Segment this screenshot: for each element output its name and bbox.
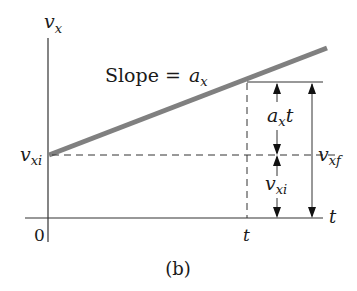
- arrow-up-icon: [308, 83, 316, 94]
- arrow-up-icon: [273, 83, 281, 94]
- y-axis-label: vx: [44, 10, 63, 36]
- slope-label: Slope = ax: [105, 64, 208, 89]
- final-velocity-label: vxf: [318, 143, 343, 168]
- x-axis-label: t: [329, 206, 337, 227]
- figure-caption: (b): [165, 258, 191, 279]
- arrow-down-icon: [308, 207, 316, 218]
- intercept-label: vxi: [20, 143, 42, 168]
- arrow-down-icon: [273, 144, 281, 155]
- arrow-down-icon: [273, 207, 281, 218]
- velocity-change-label: axt: [267, 104, 294, 129]
- origin-label: 0: [34, 225, 45, 245]
- arrow-up-icon: [273, 155, 281, 166]
- total-dimension-arrows: [308, 83, 316, 218]
- time-tick-label: t: [243, 225, 250, 245]
- velocity-time-graph: vx t 0 t Slope = ax vxi axt vxi vxf (b): [0, 0, 357, 291]
- initial-velocity-segment-label: vxi: [265, 172, 287, 197]
